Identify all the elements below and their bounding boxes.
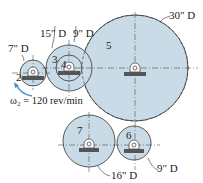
gear-train-diagram: 7" D 15" D 9" D 30" D 9" D 16" D 2 3 4 5… xyxy=(0,0,203,183)
gear-4-label: 4 xyxy=(61,59,67,70)
gear-7-label: 7 xyxy=(77,125,83,136)
gear-6-diameter: 9" D xyxy=(157,163,178,174)
gear-train-drawing xyxy=(0,0,203,183)
gear-2-diameter: 7" D xyxy=(8,43,29,54)
gear-3-label: 3 xyxy=(52,54,58,65)
gear-5-label: 5 xyxy=(106,40,112,51)
gear-5-diameter: 30" D xyxy=(169,10,195,21)
gear-4-diameter: 9" D xyxy=(73,28,94,39)
input-speed-label: ω₂ = 120 rev/min xyxy=(10,96,83,107)
gear-7-diameter: 16" D xyxy=(111,170,137,181)
gear-3-diameter: 15" D xyxy=(40,28,66,39)
gear-6-label: 6 xyxy=(126,130,132,141)
gear-2-label: 2 xyxy=(16,72,22,83)
